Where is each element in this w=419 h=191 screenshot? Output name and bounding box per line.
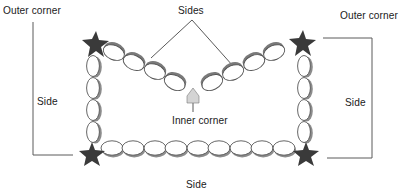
star-top-right (289, 30, 316, 56)
inner-corner-marker (187, 88, 199, 103)
star-bottom-right (293, 142, 319, 166)
top-left-slope-beads (101, 39, 189, 94)
sides-label: Sides (178, 4, 204, 16)
bottom-side-beads (101, 141, 296, 158)
left-side-beads (87, 56, 102, 144)
outer-corner-left-label: Outer corner (3, 4, 61, 16)
right-side-beads (298, 56, 313, 144)
outer-corner-right-label: Outer corner (340, 9, 398, 21)
sides-pointer-left (151, 20, 192, 58)
left-bracket-line (33, 22, 73, 155)
sides-pointer-right (192, 20, 233, 66)
side-right-label: Side (345, 96, 366, 108)
side-bottom-label: Side (186, 178, 207, 190)
side-left-label: Side (37, 95, 58, 107)
inner-corner-label: Inner corner (172, 114, 228, 126)
top-right-slope-beads (198, 39, 287, 94)
